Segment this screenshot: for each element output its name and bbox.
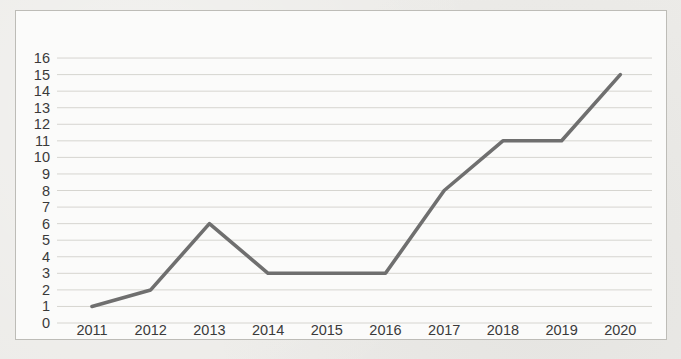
y-axis-tick-label: 14 [34, 83, 50, 99]
y-axis-tick-label: 9 [42, 166, 50, 182]
y-axis-tick-label: 15 [34, 67, 50, 83]
y-axis-tick-label: 12 [34, 116, 50, 132]
x-axis-tick-label: 2016 [369, 322, 401, 338]
x-axis-tick-label: 2014 [252, 322, 284, 338]
line-chart: 0123456789101112131415162011201220132014… [16, 11, 666, 339]
x-axis-tick-label: 2018 [487, 322, 519, 338]
x-axis-tick-label: 2012 [135, 322, 167, 338]
chart-frame: 0123456789101112131415162011201220132014… [15, 10, 667, 340]
x-axis-tick-label: 2011 [76, 322, 107, 338]
x-axis-tick-label: 2019 [545, 322, 577, 338]
x-axis-tick-label: 2020 [604, 322, 636, 338]
y-axis-tick-label: 13 [34, 100, 50, 116]
y-axis-tick-label: 3 [42, 265, 50, 281]
x-axis-tick-label: 2013 [193, 322, 225, 338]
y-axis-tick-label: 0 [42, 315, 50, 331]
y-axis-tick-label: 2 [42, 282, 50, 298]
y-axis-tick-label: 16 [34, 50, 50, 66]
y-axis-tick-label: 1 [42, 298, 50, 314]
y-axis-tick-label: 10 [34, 149, 50, 165]
y-axis-tick-label: 6 [42, 216, 50, 232]
scanned-page: 0123456789101112131415162011201220132014… [0, 0, 681, 359]
y-axis-tick-label: 4 [42, 249, 50, 265]
y-axis-tick-label: 7 [42, 199, 50, 215]
y-axis-tick-label: 8 [42, 183, 50, 199]
y-axis-tick-label: 11 [35, 133, 50, 149]
x-axis-tick-label: 2017 [428, 322, 460, 338]
y-axis-tick-label: 5 [42, 232, 50, 248]
x-axis-tick-label: 2015 [311, 322, 343, 338]
